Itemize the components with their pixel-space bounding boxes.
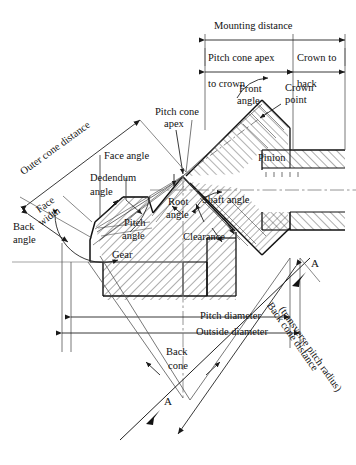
label-shaft-angle: Shaft angle bbox=[202, 194, 250, 206]
label-front-angle-1: Front bbox=[239, 83, 262, 95]
label-root-angle-2: angle bbox=[166, 209, 189, 221]
label-pitch-cone-apex-1: Pitch cone bbox=[155, 106, 199, 118]
label-root-angle-1: Root bbox=[168, 196, 188, 208]
label-dedendum-angle-1: Dedendum bbox=[90, 172, 136, 184]
label-pitch-diameter: Pitch diameter bbox=[200, 310, 261, 322]
label-dedendum-angle-2: angle bbox=[90, 186, 113, 198]
label-clearance: Clearance bbox=[183, 231, 225, 243]
label-face-angle: Face angle bbox=[104, 150, 149, 162]
label-pinion: Pinion bbox=[258, 152, 285, 164]
label-pitch-cone-apex-2: apex bbox=[164, 118, 184, 130]
section-mark-lower-a: A bbox=[164, 396, 172, 408]
label-crown-point-1: Crown bbox=[285, 82, 314, 94]
label-back-cone-2: cone bbox=[168, 360, 188, 372]
label-gear: Gear bbox=[112, 249, 132, 261]
label-back-angle-1: Back bbox=[13, 221, 35, 233]
label-crown-to-1: Crown to bbox=[297, 52, 336, 64]
label-back-angle-2: angle bbox=[13, 234, 36, 246]
label-crown-point-2: point bbox=[285, 94, 307, 106]
label-pitch-angle-2: angle bbox=[122, 230, 145, 242]
diagram-canvas: Mounting distance Pitch cone apex to cro… bbox=[0, 0, 356, 465]
label-back-cone-1: Back bbox=[166, 346, 188, 358]
label-mounting-distance: Mounting distance bbox=[214, 20, 292, 32]
bevel-gear-drawing bbox=[0, 0, 356, 465]
label-pitch-cone-apex-to-crown-1: Pitch cone apex bbox=[208, 52, 274, 64]
label-pitch-angle-1: Pitch bbox=[124, 217, 146, 229]
section-mark-upper-a: A bbox=[311, 258, 319, 270]
label-front-angle-2: angle bbox=[237, 95, 260, 107]
label-outside-diameter: Outside diameter bbox=[196, 326, 268, 338]
